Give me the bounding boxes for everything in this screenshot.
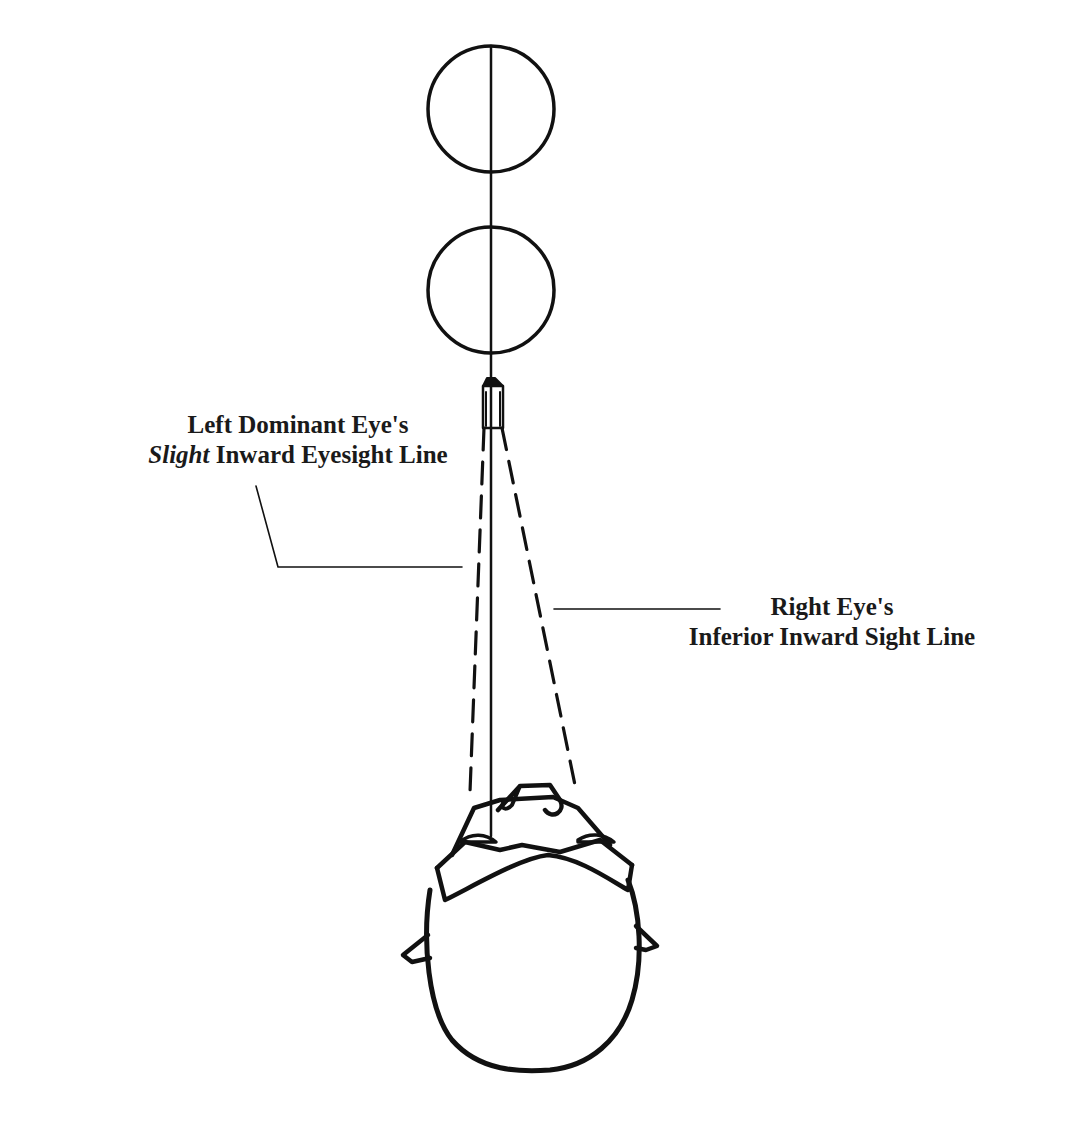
left-dominant-eye-label: Left Dominant Eye's Slight Inward Eyesig… [118,410,478,470]
head-top-view [403,785,657,1071]
left-label-line1: Left Dominant Eye's [118,410,478,440]
left-label-emphasis: Slight [148,441,209,468]
left-label-leader [256,486,462,567]
right-eye-label: Right Eye's Inferior Inward Sight Line [648,592,1016,652]
right-label-line2: Inferior Inward Sight Line [648,622,1016,652]
left-label-line2: Slight Inward Eyesight Line [118,440,478,470]
eye-dominance-diagram [0,0,1068,1134]
left-eye-sight-line [470,428,484,792]
left-label-line2-rest: Inward Eyesight Line [209,441,447,468]
sighting-device [483,378,503,428]
right-label-line1: Right Eye's [648,592,1016,622]
